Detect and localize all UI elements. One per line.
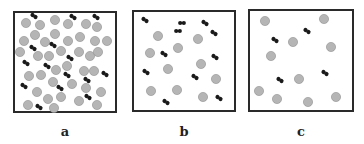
molecule-icon xyxy=(43,62,52,70)
molecule-icon xyxy=(210,29,219,37)
molecule-icon xyxy=(142,68,151,76)
atom-icon xyxy=(96,87,105,96)
atom-icon xyxy=(43,94,52,103)
atom-icon xyxy=(303,97,312,106)
molecule-icon xyxy=(271,36,280,44)
atom-icon xyxy=(50,29,59,38)
particles-layer xyxy=(0,0,364,144)
atom-icon xyxy=(49,103,58,112)
atom-icon xyxy=(288,37,297,46)
atom-icon xyxy=(81,83,90,92)
atom-icon xyxy=(260,16,269,25)
molecule-icon xyxy=(276,76,285,84)
atom-icon xyxy=(211,74,220,83)
panel-b-particles xyxy=(141,16,224,106)
atom-icon xyxy=(81,19,90,28)
atom-icon xyxy=(74,96,83,105)
molecule-icon xyxy=(20,82,29,90)
molecule-icon xyxy=(56,84,65,92)
atom-icon xyxy=(35,20,44,29)
atom-icon xyxy=(146,86,155,95)
atom-icon xyxy=(93,47,102,56)
molecule-icon xyxy=(303,27,312,35)
atom-icon xyxy=(294,74,303,83)
atom-icon xyxy=(92,22,101,31)
atom-icon xyxy=(272,94,281,103)
atom-icon xyxy=(145,48,154,57)
molecule-icon xyxy=(321,69,330,77)
atom-icon xyxy=(56,46,65,55)
atom-icon xyxy=(92,100,101,109)
atom-icon xyxy=(193,34,202,43)
molecule-icon xyxy=(201,19,210,27)
atom-icon xyxy=(63,36,72,45)
atom-icon xyxy=(319,14,328,23)
atom-icon xyxy=(67,79,76,88)
atom-icon xyxy=(56,92,65,101)
molecule-icon xyxy=(30,12,39,20)
molecule-icon xyxy=(66,54,75,62)
molecule-icon xyxy=(101,70,110,78)
molecule-icon xyxy=(141,16,150,24)
atom-icon xyxy=(24,71,33,80)
atom-icon xyxy=(198,92,207,101)
atom-icon xyxy=(44,51,53,60)
molecule-icon xyxy=(35,103,44,111)
atom-icon xyxy=(33,51,42,60)
atom-icon xyxy=(30,30,39,39)
atom-icon xyxy=(173,43,182,52)
atom-icon xyxy=(163,64,172,73)
atom-icon xyxy=(19,36,28,45)
atom-icon xyxy=(153,31,162,40)
atom-icon xyxy=(79,66,88,75)
atom-icon xyxy=(196,59,205,68)
atom-icon xyxy=(326,42,335,51)
atom-icon xyxy=(331,92,340,101)
atom-icon xyxy=(172,85,181,94)
atom-icon xyxy=(21,18,30,27)
molecule-icon xyxy=(211,53,220,61)
atom-icon xyxy=(51,65,60,74)
atom-icon xyxy=(102,36,111,45)
atom-icon xyxy=(48,77,57,86)
molecule-icon xyxy=(174,29,182,33)
atom-icon xyxy=(23,100,32,109)
atom-icon xyxy=(62,61,71,70)
atom-icon xyxy=(75,32,84,41)
molecule-icon xyxy=(92,13,101,21)
molecule-icon xyxy=(191,73,200,81)
atom-icon xyxy=(90,36,99,45)
atom-icon xyxy=(89,66,98,75)
molecule-icon xyxy=(22,59,31,67)
molecule-icon xyxy=(162,98,171,106)
panel-c-particles xyxy=(254,14,340,106)
molecule-icon xyxy=(215,94,224,102)
panel-a-particles xyxy=(15,12,111,113)
atom-icon xyxy=(15,47,24,56)
atom-icon xyxy=(40,37,49,46)
atom-icon xyxy=(32,87,41,96)
atom-icon xyxy=(50,15,59,24)
molecule-icon xyxy=(29,44,38,52)
atom-icon xyxy=(36,70,45,79)
atom-icon xyxy=(74,47,83,56)
atom-icon xyxy=(63,19,72,28)
molecule-icon xyxy=(178,21,186,25)
molecule-icon xyxy=(49,41,58,49)
atom-icon xyxy=(266,51,275,60)
atom-icon xyxy=(254,86,263,95)
molecule-icon xyxy=(160,50,169,58)
molecule-icon xyxy=(63,71,72,79)
molecule-icon xyxy=(84,93,93,101)
molecule-icon xyxy=(83,76,92,84)
